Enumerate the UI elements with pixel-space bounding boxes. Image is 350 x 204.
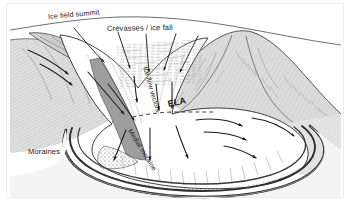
crevasse-field: [117, 39, 204, 89]
label-crevasses-ice-fall: Crevasses / ice fall: [107, 24, 173, 33]
glacier-diagram-figure: Ice field summit Crevasses / ice fall Ic…: [0, 0, 350, 204]
label-moraines: Moraines: [28, 148, 60, 156]
